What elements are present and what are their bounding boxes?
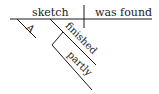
predicate-word: was found — [95, 6, 152, 19]
modifier-word-article: A — [23, 21, 37, 35]
sentence-diagram: sketch was found A finished partly — [0, 0, 159, 94]
subject-word: sketch — [32, 6, 69, 19]
